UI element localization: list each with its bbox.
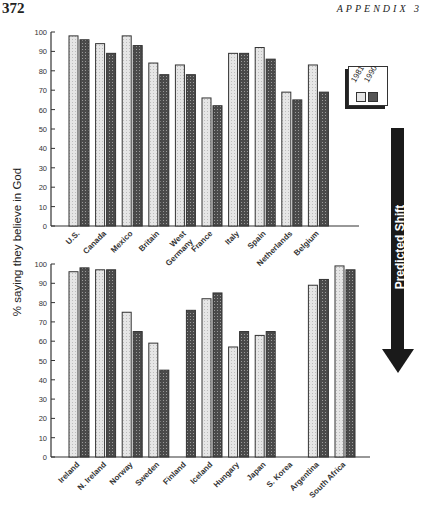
x-tick-label: Canada (81, 229, 108, 256)
y-tick-label: 40 (39, 144, 47, 153)
x-tick-label: Ireland (56, 460, 81, 485)
x-tick-label: Sweden (133, 460, 161, 488)
bar-1981 (335, 266, 344, 457)
bar-1981 (96, 270, 105, 457)
bar-1990 (213, 106, 222, 226)
bar-1990 (186, 75, 195, 226)
legend-swatch-1990 (368, 92, 378, 102)
chart-top: 0102030405060708090100U.S.CanadaMexicoBr… (34, 28, 359, 268)
bar-1981 (255, 335, 264, 457)
bar-1990 (160, 75, 169, 226)
chart-bottom: 0102030405060708090100IrelandN. IrelandN… (34, 260, 370, 500)
bar-1990 (266, 59, 275, 226)
x-tick-label: Iceland (189, 460, 215, 486)
bar-1981 (149, 63, 158, 226)
bar-1981 (122, 36, 131, 226)
x-tick-label: Belgium (292, 229, 321, 258)
bar-1990 (213, 293, 222, 457)
bar-1990 (240, 332, 249, 457)
x-tick-label: N. Ireland (76, 460, 108, 492)
bar-1990 (107, 270, 116, 457)
bar-1981 (308, 65, 317, 226)
bar-1981 (69, 272, 78, 457)
y-tick-label: 30 (39, 164, 47, 173)
bar-1981 (308, 285, 317, 457)
x-tick-label: France (189, 229, 214, 254)
bar-1990 (160, 370, 169, 457)
legend-label-1981: 1981 (349, 64, 366, 84)
bar-1981 (96, 44, 105, 226)
y-tick-label: 10 (39, 203, 47, 212)
y-tick-label: 30 (39, 395, 47, 404)
y-tick-label: 40 (39, 376, 47, 385)
bar-1981 (202, 299, 211, 457)
y-tick-label: 70 (39, 318, 47, 327)
bar-1981 (175, 65, 184, 226)
x-tick-label: Japan (245, 460, 268, 483)
y-tick-label: 80 (39, 67, 47, 76)
bar-1981 (255, 48, 264, 226)
y-tick-label: 60 (39, 106, 47, 115)
bar-1990 (80, 268, 89, 457)
y-tick-label: 70 (39, 86, 47, 95)
bar-1981 (229, 347, 238, 457)
bar-1990 (186, 310, 195, 457)
y-tick-label: 10 (39, 434, 47, 443)
x-tick-label: Britain (137, 229, 161, 253)
bar-1990 (319, 279, 328, 457)
predicted-shift-label: Predicted Shift (393, 192, 407, 302)
bar-1981 (282, 92, 291, 226)
bar-1981 (69, 36, 78, 226)
bar-1990 (319, 92, 328, 226)
y-tick-label: 90 (39, 279, 47, 288)
y-tick-label: 50 (39, 357, 47, 366)
y-tick-label: 60 (39, 337, 47, 346)
x-tick-label: Finland (161, 460, 188, 487)
bar-1981 (122, 312, 131, 457)
bar-1990 (80, 40, 89, 226)
x-tick-label: Hungary (212, 460, 242, 490)
legend-swatch-1981 (356, 92, 366, 102)
bar-1990 (107, 53, 116, 226)
bar-1990 (266, 332, 275, 457)
y-tick-label: 0 (43, 222, 47, 231)
legend: 1981 1990 (348, 66, 388, 106)
y-tick-label: 20 (39, 183, 47, 192)
x-tick-label: Spain (246, 229, 268, 251)
y-tick-label: 90 (39, 47, 47, 56)
bar-1990 (240, 53, 249, 226)
bar-1990 (293, 100, 302, 226)
y-tick-label: 0 (43, 453, 47, 462)
bar-1990 (133, 46, 142, 226)
bar-1981 (149, 343, 158, 457)
y-tick-label: 20 (39, 414, 47, 423)
x-tick-label: Norway (108, 460, 135, 487)
y-tick-label: 50 (39, 125, 47, 134)
bar-1981 (229, 53, 238, 226)
y-tick-label: 100 (34, 260, 47, 269)
x-tick-label: U.S. (64, 229, 81, 246)
bar-1990 (346, 270, 355, 457)
y-tick-label: 80 (39, 299, 47, 308)
x-tick-label: Italy (223, 229, 241, 247)
bar-1990 (133, 332, 142, 457)
y-axis-label: % saying they believe in God (11, 167, 23, 317)
y-tick-label: 100 (34, 28, 47, 37)
bar-1981 (202, 98, 211, 226)
x-tick-label: Mexico (109, 229, 135, 255)
